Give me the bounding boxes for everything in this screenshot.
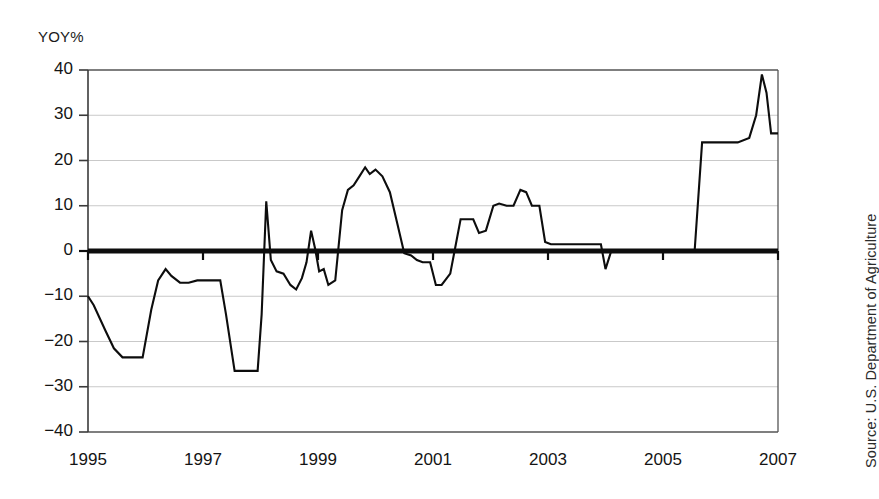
y-tick-label-20: 20 [13,150,73,170]
y-tick-label--20: −20 [13,331,73,351]
x-tick-label-2007: 2007 [738,450,818,470]
y-tick-label-0: 0 [13,240,73,260]
x-tick-label-2005: 2005 [623,450,703,470]
y-tick-label-10: 10 [13,195,73,215]
x-tick-label-2001: 2001 [393,450,473,470]
y-axis-title: YOY% [38,28,84,45]
x-tick-label-1997: 1997 [163,450,243,470]
x-tick-label-1999: 1999 [278,450,358,470]
y-tick-label--40: −40 [13,421,73,441]
y-tick-label-40: 40 [13,59,73,79]
y-tick-label--30: −30 [13,376,73,396]
y-tick-label-30: 30 [13,104,73,124]
source-note: Source: U.S. Department of Agriculture [863,178,879,468]
x-tick-label-1995: 1995 [48,450,128,470]
x-tick-label-2003: 2003 [508,450,588,470]
data-series-line [88,75,778,371]
y-tick-label--10: −10 [13,285,73,305]
